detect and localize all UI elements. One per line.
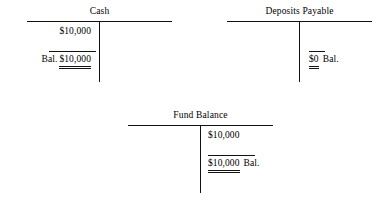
balance-label: Bal.	[244, 158, 260, 168]
entry-amount: $10,000	[59, 26, 91, 37]
debit-balance-row: Bal.$10,000	[41, 54, 91, 67]
balance-label: Bal.	[323, 54, 339, 64]
credit-entry: $10,000	[208, 130, 240, 141]
t-account-cash: Cash $10,000 Bal.$10,000	[27, 6, 172, 82]
t-vertical-stem-cash	[99, 21, 100, 82]
t-account-deposits-payable: Deposits Payable $0Bal.	[227, 6, 372, 82]
credit-balance-row: $10,000Bal.	[208, 158, 260, 171]
balance-amount: $10,000	[208, 158, 240, 171]
t-vertical-stem-deposits-payable	[299, 21, 300, 82]
subtotal-rule-cash	[49, 51, 96, 52]
credit-balance-row: $0Bal.	[309, 54, 339, 67]
debit-entry: $10,000	[59, 26, 91, 37]
subtotal-rule-deposits-payable	[309, 51, 325, 52]
balance-label: Bal.	[41, 54, 57, 64]
t-account-diagram: Cash $10,000 Bal.$10,000 Deposits Payabl…	[0, 0, 388, 200]
balance-amount: $10,000	[59, 54, 91, 67]
balance-amount: $0	[309, 54, 319, 67]
entry-amount: $10,000	[208, 130, 240, 141]
t-account-fund-balance: Fund Balance $10,000 $10,000Bal.	[128, 110, 273, 194]
t-vertical-stem-fund-balance	[200, 125, 201, 193]
subtotal-rule-fund-balance	[208, 155, 255, 156]
account-title-fund-balance: Fund Balance	[128, 110, 273, 121]
account-title-cash: Cash	[27, 6, 172, 17]
account-title-deposits-payable: Deposits Payable	[227, 6, 372, 17]
